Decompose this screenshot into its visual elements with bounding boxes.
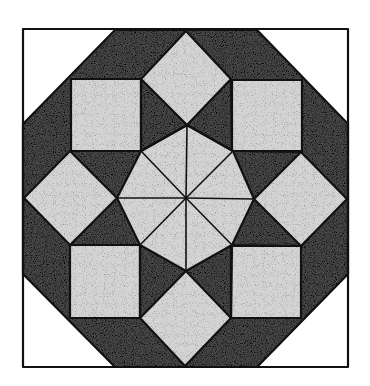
connector-line <box>231 245 232 318</box>
quilt-pattern-figure <box>0 0 370 386</box>
center-spoke <box>186 198 254 199</box>
corner-square-top-right <box>232 80 302 151</box>
pattern-canvas <box>0 0 370 386</box>
connector-line <box>231 79 232 151</box>
center-spoke <box>186 125 187 198</box>
corner-square-top-left <box>71 79 141 151</box>
connector-line <box>233 151 301 152</box>
corner-square-bottom-right <box>231 246 301 318</box>
connector-line <box>232 245 301 246</box>
corner-square-bottom-left <box>70 245 140 318</box>
